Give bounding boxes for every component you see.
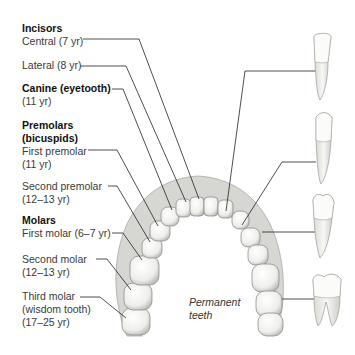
second-molar-age: (12–13 yr)	[22, 266, 87, 279]
side-tooth-incisor	[314, 33, 331, 100]
third-molar-age: (17–25 yr)	[22, 316, 91, 329]
second-premolar-label: Second premolar	[22, 180, 102, 193]
label-second-premolar: Second premolar (12–13 yr)	[22, 180, 102, 206]
label-second-molar: Second molar (12–13 yr)	[22, 253, 87, 279]
label-lateral-incisor: Lateral (8 yr)	[22, 59, 82, 72]
right-second-premolar	[248, 245, 268, 265]
bicuspids-heading: (bicuspids)	[22, 132, 87, 145]
wisdom-tooth-label: (wisdom tooth)	[22, 303, 91, 316]
third-molar-label: Third molar	[22, 290, 91, 303]
right-canine	[232, 211, 249, 229]
canine-heading: Canine (eyetooth)	[22, 82, 111, 95]
leader-central-incisor	[83, 39, 199, 199]
right-third-molar	[258, 313, 283, 336]
permanent-teeth-caption: Permanent teeth	[189, 296, 240, 322]
caption-line-2: teeth	[189, 309, 240, 322]
first-premolar-label: First premolar	[22, 145, 87, 158]
side-tooth-molar	[313, 274, 341, 326]
right-first-premolar	[241, 228, 260, 247]
label-incisors: Incisors Central (7 yr)	[22, 22, 83, 48]
left-first-molar	[130, 256, 159, 285]
left-second-molar	[124, 283, 152, 310]
left-third-molar	[122, 308, 150, 335]
canine-age: (11 yr)	[22, 95, 111, 108]
label-premolars: Premolars (bicuspids) First premolar (11…	[22, 119, 87, 171]
permanent-teeth-diagram: Incisors Central (7 yr) Lateral (8 yr) C…	[0, 0, 355, 355]
right-lateral-incisor	[218, 200, 233, 218]
side-tooth-canine	[316, 113, 332, 184]
left-central-incisor	[190, 197, 204, 216]
label-canine: Canine (eyetooth) (11 yr)	[22, 82, 111, 108]
incisors-heading: Incisors	[22, 22, 83, 35]
second-molar-label: Second molar	[22, 253, 87, 266]
central-incisor-label: Central (7 yr)	[22, 35, 83, 48]
lateral-incisor-label: Lateral (8 yr)	[22, 59, 82, 72]
left-lateral-incisor	[176, 199, 191, 217]
premolars-heading: Premolars	[22, 119, 87, 132]
right-central-incisor	[204, 197, 218, 216]
caption-line-1: Permanent	[189, 296, 240, 309]
molars-heading: Molars	[22, 214, 111, 227]
label-third-molar: Third molar (wisdom tooth) (17–25 yr)	[22, 290, 91, 329]
label-molars: Molars First molar (6–7 yr)	[22, 214, 111, 240]
first-molar-label: First molar (6–7 yr)	[22, 227, 111, 240]
second-premolar-age: (12–13 yr)	[22, 193, 102, 206]
first-premolar-age: (11 yr)	[22, 158, 87, 171]
right-first-molar	[252, 264, 279, 292]
side-tooth-premolar	[313, 194, 334, 258]
